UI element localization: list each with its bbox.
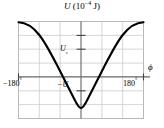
chart-title: U (10−4 J) <box>0 2 164 11</box>
y-tick-positive-subscript: s <box>66 50 68 55</box>
x-axis-symbol-label: ϕ <box>148 63 153 72</box>
y-tick-label-negative: −Us <box>57 81 70 89</box>
y-tick-label-positive: Us <box>60 45 68 53</box>
x-tick-left-value: −180 <box>3 79 20 88</box>
potential-energy-figure: U (10−4 J) Us −Us −180° 180° ϕ <box>0 0 164 128</box>
y-tick-negative-subscript: s <box>68 86 70 91</box>
x-tick-right-value: 180 <box>123 79 135 88</box>
x-tick-label-right: 180° <box>123 80 137 88</box>
title-unit-open: (10 <box>71 1 85 11</box>
title-unit-close: J) <box>91 1 100 11</box>
degree-symbol-right: ° <box>135 77 137 83</box>
plot-canvas <box>0 0 164 128</box>
x-tick-label-left: −180° <box>3 80 22 88</box>
degree-symbol-left: ° <box>20 77 22 83</box>
